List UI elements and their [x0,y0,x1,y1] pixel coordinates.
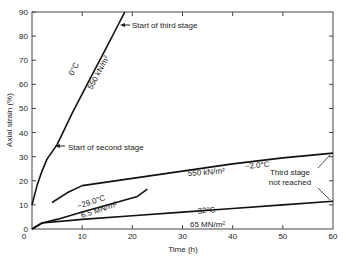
y-tick-label: 50 [19,104,28,113]
y-tick-label: 30 [19,153,28,162]
x-tick-label: 30 [178,232,187,241]
creep-chart: 0102030405060708090 0102030405060 Axial … [0,0,343,261]
annotation-second-stage: Start of second stage [68,143,144,152]
label-m2c-temp: −2.0°C [244,160,270,171]
plot-frame [32,12,333,229]
x-axis-ticks: 0102030405060 [22,12,338,241]
x-tick-label: 10 [78,232,87,241]
y-axis-label: Axial strain (%) [5,93,14,147]
label-0c-temp: 0°C [67,61,81,77]
annotation-third-stage: Start of third stage [132,21,198,30]
series-line [32,12,125,205]
label-m32c-temp: −32°C [193,205,216,216]
y-tick-label: 80 [19,32,28,41]
arrow-not-reached-down [318,188,330,200]
x-tick-label: 50 [278,232,287,241]
y-tick-label: 70 [19,56,28,65]
arrow-not-reached-up [318,155,330,168]
x-tick-label: 20 [128,232,137,241]
label-0c-stress: 550 kN/m² [86,54,111,91]
arrowhead-third-stage [120,23,125,27]
y-axis-ticks: 0102030405060708090 [19,8,333,234]
label-m32c-stress: 65 MN/m² [190,220,225,229]
y-tick-label: 40 [19,129,28,138]
y-tick-label: 20 [19,177,28,186]
y-tick-label: 90 [19,8,28,17]
series-lines [32,12,333,229]
x-axis-label: Time (h) [168,245,198,254]
annotation-not-reached-2: not reached [269,178,311,187]
label-m2c-stress: 550 kN/m² [188,166,226,178]
x-tick-label: 40 [228,232,237,241]
annotation-not-reached-1: Third stage [270,168,311,177]
y-tick-label: 10 [19,201,28,210]
x-tick-label: 0 [22,232,27,241]
y-tick-label: 60 [19,80,28,89]
x-tick-label: 60 [329,232,338,241]
